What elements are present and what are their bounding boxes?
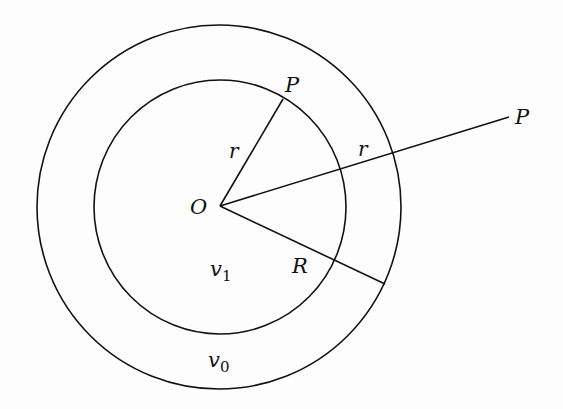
label-region-v1: v1 (210, 257, 231, 285)
diagram-canvas: O P P r r R v1 v0 (0, 0, 563, 409)
label-v0-base: v (208, 348, 220, 372)
label-v1-base: v (210, 257, 222, 281)
label-point-p-inner: P (284, 73, 300, 97)
label-v0-subscript: 0 (220, 358, 230, 376)
segment-o-to-p-outer (220, 117, 509, 206)
label-point-p-outer: P (514, 105, 530, 129)
label-v1-subscript: 1 (222, 267, 232, 285)
label-region-v0: v0 (208, 348, 229, 376)
label-radius-R: R (291, 254, 308, 278)
label-center-o: O (190, 195, 207, 219)
inner-circle (94, 80, 346, 334)
label-radius-r-outer: r (358, 137, 369, 161)
label-radius-r-inner: r (229, 139, 240, 163)
geometry-figure: O P P r r R v1 v0 (0, 0, 563, 409)
